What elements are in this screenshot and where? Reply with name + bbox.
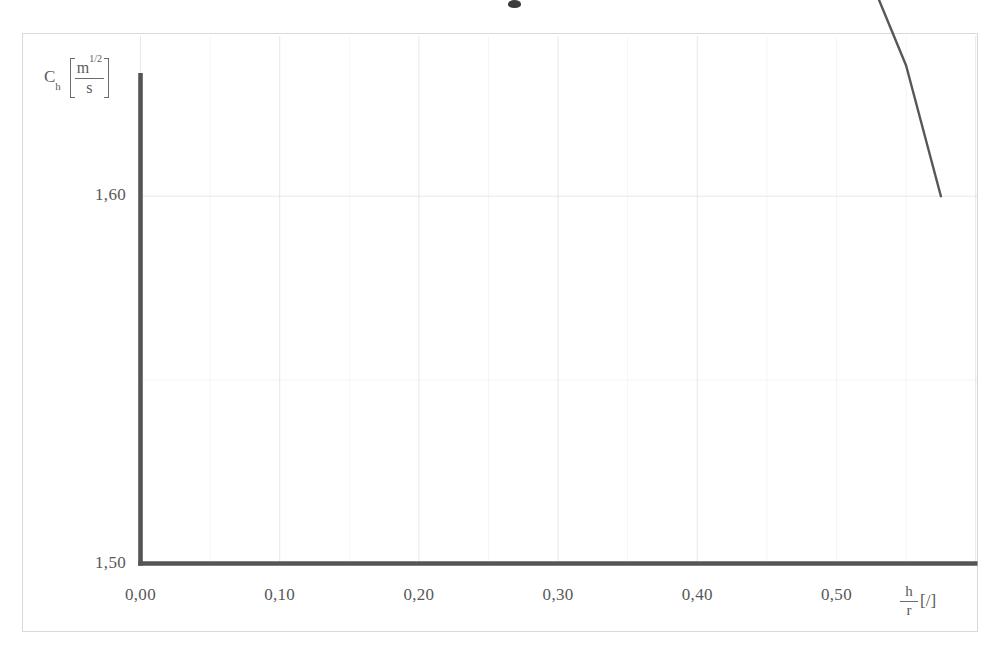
y-axis-symbol: Ch xyxy=(44,67,61,88)
y-axis-unit-fraction: m1/2 s xyxy=(75,59,104,97)
x-axis-symbol-numerator: h xyxy=(903,584,915,601)
plot-area xyxy=(0,0,1007,661)
y-axis-symbol-base: C xyxy=(44,67,55,86)
x-tick-label: 0,10 xyxy=(240,585,320,605)
y-axis-unit-denominator: s xyxy=(84,79,94,97)
y-axis-unit-numerator: m1/2 xyxy=(75,59,104,78)
y-axis-unit-numerator-text: m xyxy=(77,59,89,76)
x-axis-symbol-denominator: r xyxy=(905,602,914,619)
x-tick-label: 0,20 xyxy=(379,585,459,605)
chart-figure: Ch m1/2 s h r [/] 1,501,601,701,80 0,000… xyxy=(0,0,1007,661)
x-tick-label: 0,40 xyxy=(657,585,737,605)
y-axis-title: Ch m1/2 s xyxy=(44,58,109,98)
y-tick-label: 1,50 xyxy=(62,553,126,573)
data-series-line xyxy=(141,0,941,196)
x-tick-label: 0,00 xyxy=(101,585,181,605)
x-axis-symbol-fraction: h r xyxy=(900,584,918,619)
x-axis-title: h r [/] xyxy=(900,584,936,619)
x-axis-unit: [/] xyxy=(920,591,936,611)
y-axis-symbol-subscript: h xyxy=(55,80,61,92)
y-axis-unit-bracket: m1/2 s xyxy=(70,58,109,98)
y-axis-unit-exponent: 1/2 xyxy=(89,53,102,64)
x-tick-label: 0,30 xyxy=(518,585,598,605)
gridlines xyxy=(141,36,978,564)
y-tick-label: 1,60 xyxy=(62,185,126,205)
x-tick-label: 0,50 xyxy=(797,585,877,605)
